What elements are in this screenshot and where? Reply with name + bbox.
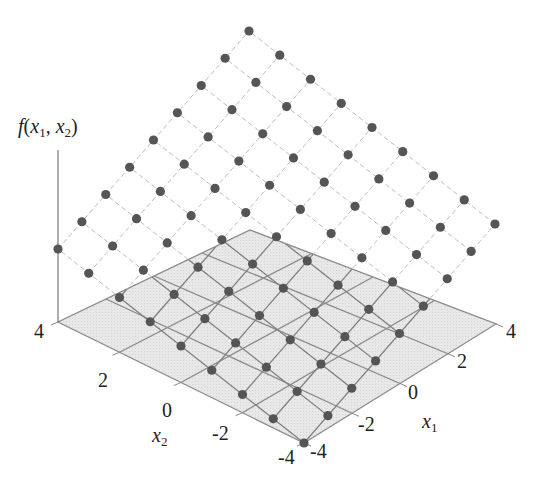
data-point (412, 250, 421, 259)
x2-axis-label: x2 (151, 424, 167, 449)
data-point (286, 335, 295, 344)
data-point (490, 219, 499, 228)
data-point (388, 277, 397, 286)
data-point (316, 359, 325, 368)
data-point (279, 284, 288, 293)
data-point (187, 211, 196, 220)
data-point (77, 217, 86, 226)
data-point (204, 132, 213, 141)
data-point (327, 229, 336, 238)
data-point (443, 274, 452, 283)
data-point (289, 153, 298, 162)
data-point (258, 129, 267, 138)
data-point (248, 259, 257, 268)
data-point (255, 311, 264, 320)
data-point (238, 390, 247, 399)
data-point (364, 305, 373, 314)
data-point (241, 208, 250, 217)
data-point (234, 156, 243, 165)
data-point (53, 244, 62, 253)
data-point (306, 75, 315, 84)
data-point (210, 184, 219, 193)
data-point (320, 178, 329, 187)
data-point (337, 99, 346, 108)
data-point (170, 290, 179, 299)
data-point (275, 51, 284, 60)
data-point (323, 411, 332, 420)
data-point (310, 308, 319, 317)
data-point (282, 102, 291, 111)
data-point (398, 147, 407, 156)
data-point (173, 108, 182, 117)
data-point (313, 126, 322, 135)
data-point (381, 226, 390, 235)
z-axis-label: f(x1, x2) (18, 115, 78, 140)
data-point (231, 338, 240, 347)
data-point (207, 366, 216, 375)
data-point (262, 363, 271, 372)
x2-tick-0: 0 (162, 399, 172, 421)
data-point (303, 256, 312, 265)
data-point (269, 414, 278, 423)
data-point (125, 163, 134, 172)
chart-3d-figure: f(x1, x2) 4 2 0 -2 -4 -4 -2 0 2 4 x2 x1 (0, 0, 533, 487)
x1-tick-0: 0 (408, 381, 418, 403)
data-point (197, 81, 206, 90)
data-point (293, 387, 302, 396)
data-point (149, 135, 158, 144)
data-point (347, 384, 356, 393)
x2-tick-mark (236, 413, 243, 416)
data-point (180, 160, 189, 169)
data-point (436, 223, 445, 232)
data-point (244, 26, 253, 35)
data-point (340, 332, 349, 341)
data-point (217, 235, 226, 244)
data-point (84, 269, 93, 278)
data-point (371, 356, 380, 365)
data-point (419, 302, 428, 311)
data-point (367, 123, 376, 132)
data-point (265, 181, 274, 190)
data-point (163, 238, 172, 247)
data-point (405, 198, 414, 207)
x1-tick-4: 4 (506, 320, 516, 342)
data-point (272, 232, 281, 241)
data-point (176, 341, 185, 350)
data-point (227, 105, 236, 114)
data-point (460, 195, 469, 204)
data-point (101, 190, 110, 199)
data-point (344, 150, 353, 159)
data-point (299, 438, 308, 447)
x2-tick-2: 2 (98, 369, 108, 391)
data-point (115, 293, 124, 302)
x1-tick-mark (496, 324, 503, 327)
x2-tick-neg4: -4 (278, 446, 295, 468)
x2-tick-mark (113, 352, 120, 355)
x1-tick-neg2: -2 (358, 413, 375, 435)
x1-axis-label: x1 (421, 410, 437, 435)
data-point (193, 263, 202, 272)
x1-tick-mark (400, 384, 407, 387)
data-point (146, 317, 155, 326)
data-point (350, 202, 359, 211)
data-point (333, 281, 342, 290)
data-point (374, 174, 383, 183)
data-point (132, 214, 141, 223)
x2-tick-mark (51, 322, 58, 325)
data-point (357, 253, 366, 262)
x2-tick-4: 4 (34, 320, 44, 342)
data-point (251, 78, 260, 87)
data-point (200, 314, 209, 323)
data-point (139, 266, 148, 275)
data-point (221, 54, 230, 63)
x2-tick-mark (174, 383, 181, 386)
data-point (429, 171, 438, 180)
x2-tick-neg2: -2 (212, 422, 229, 444)
data-point (395, 329, 404, 338)
data-point (156, 187, 165, 196)
data-point (467, 247, 476, 256)
x1-tick-neg4: -4 (310, 440, 327, 462)
x1-tick-mark (448, 354, 455, 357)
data-point (224, 287, 233, 296)
data-point (108, 241, 117, 250)
